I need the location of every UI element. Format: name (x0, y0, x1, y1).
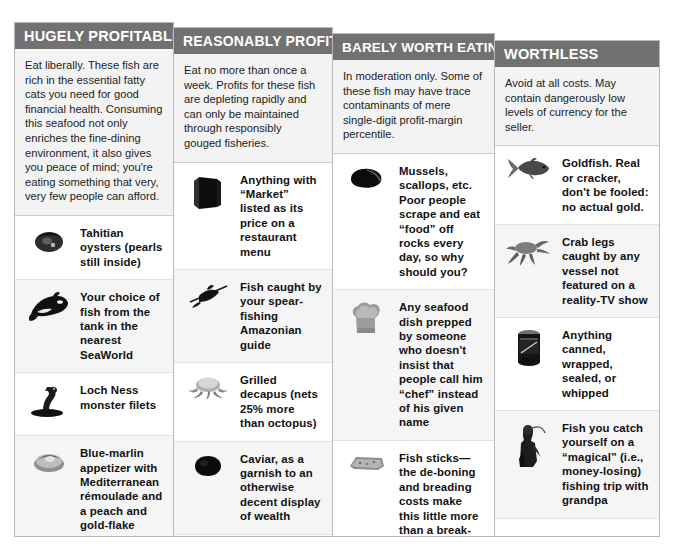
item-list: Tahitian oysters (pearls still inside) Y… (15, 216, 173, 537)
grilled-decapus-icon (184, 373, 232, 401)
category-header: HUGELY PROFITABLE (15, 23, 173, 49)
fish-stick-icon (343, 451, 391, 475)
list-item: Goldfish. Real or cracker, don't be fool… (495, 146, 659, 225)
list-item-label: Anything canned, wrapped, sealed, or whi… (562, 328, 649, 400)
large-dark-fish-photo (174, 535, 332, 537)
category-header-label: REASONABLY PROFITABLE (183, 33, 333, 49)
list-item-label: Grilled decapus (nets 25% more than octo… (240, 373, 322, 431)
grandpa-fishing-icon (505, 421, 553, 469)
list-item-label: Tahitian oysters (pearls still inside) (80, 226, 163, 269)
list-item: Tahitian oysters (pearls still inside) (15, 216, 173, 280)
category-panel-worthless: WORTHLESS Avoid at all costs. May contai… (494, 40, 660, 537)
list-item-label: Caviar, as a garnish to an otherwise dec… (240, 452, 322, 524)
list-item: Your choice of fish from the tank in the… (15, 280, 173, 373)
crab-icon (505, 235, 553, 267)
list-item-label: Your choice of fish from the tank in the… (80, 290, 163, 362)
list-item-label: Fish sticks— the de-boning and breading … (399, 451, 484, 537)
loch-ness-monster-icon (25, 383, 73, 425)
category-intro: In moderation only. Some of these fish m… (333, 60, 494, 154)
list-item: Fish sticks— the de-boning and breading … (333, 441, 494, 537)
list-item-label: Crab legs caught by any vessel not featu… (562, 235, 649, 307)
list-item: Mussels, scallops, etc. Poor people scra… (333, 154, 494, 290)
list-item-label: Anything with “Market” listed as its pri… (240, 173, 322, 259)
category-header: WORTHLESS (495, 41, 659, 67)
list-item-label: Loch Ness monster filets (80, 383, 163, 412)
category-header: BARELY WORTH EATING (333, 34, 494, 60)
category-header: REASONABLY PROFITABLE (174, 28, 332, 54)
seafood-profitability-infographic: HUGELY PROFITABLE Eat liberally. These f… (0, 0, 673, 557)
orca-icon (25, 290, 73, 324)
blue-marlin-appetizer-icon (25, 446, 73, 476)
list-item-label: Mussels, scallops, etc. Poor people scra… (399, 164, 484, 279)
category-panel-reasonably-profitable: REASONABLY PROFITABLE Eat no more than o… (173, 27, 333, 537)
category-panel-hugely-profitable: HUGELY PROFITABLE Eat liberally. These f… (14, 22, 174, 537)
large-shrimp-photo (495, 519, 659, 538)
list-item: Anything with “Market” listed as its pri… (174, 163, 332, 270)
category-intro: Avoid at all costs. May contain dangerou… (495, 67, 659, 146)
item-list: Mussels, scallops, etc. Poor people scra… (333, 154, 494, 537)
list-item-label: Fish caught by your spear-fishing Amazon… (240, 280, 322, 352)
list-item: Crab legs caught by any vessel not featu… (495, 225, 659, 318)
category-header-label: WORTHLESS (504, 46, 598, 62)
item-list: Goldfish. Real or cracker, don't be fool… (495, 146, 659, 537)
category-panel-barely-worth-eating: BARELY WORTH EATING In moderation only. … (332, 33, 495, 537)
mussel-icon (343, 164, 391, 192)
list-item-label: Blue-marlin appetizer with Mediterranean… (80, 446, 163, 537)
list-item: Blue-marlin appetizer with Mediterranean… (15, 436, 173, 537)
item-list: Anything with “Market” listed as its pri… (174, 163, 332, 537)
list-item-label: Any seafood dish prepped by someone who … (399, 300, 484, 430)
caviar-icon (184, 452, 232, 480)
list-item-label: Fish you catch yourself on a “magical” (… (562, 421, 649, 507)
list-item: Fish you catch yourself on a “magical” (… (495, 411, 659, 518)
category-header-label: BARELY WORTH EATING (342, 40, 495, 55)
spear-fish-icon (184, 280, 232, 310)
chef-hat-icon (343, 300, 391, 338)
canned-food-icon (505, 328, 553, 368)
list-item: Anything canned, wrapped, sealed, or whi… (495, 318, 659, 411)
category-intro: Eat liberally. These fish are rich in th… (15, 49, 173, 216)
list-item: Caviar, as a garnish to an otherwise dec… (174, 442, 332, 535)
goldfish-icon (505, 156, 553, 180)
list-item: Grilled decapus (nets 25% more than octo… (174, 363, 332, 442)
list-item-label: Goldfish. Real or cracker, don't be fool… (562, 156, 649, 214)
category-header-label: HUGELY PROFITABLE (24, 28, 174, 44)
list-item: Loch Ness monster filets (15, 373, 173, 436)
list-item: Any seafood dish prepped by someone who … (333, 290, 494, 441)
oyster-icon (25, 226, 73, 256)
list-item: Fish caught by your spear-fishing Amazon… (174, 270, 332, 363)
category-intro: Eat no more than once a week. Profits fo… (174, 54, 332, 163)
menu-icon (184, 173, 232, 213)
